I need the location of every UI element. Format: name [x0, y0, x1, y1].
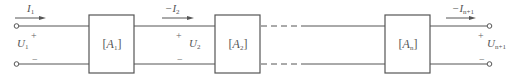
block-a2-label: [A2]: [215, 38, 261, 52]
arrowhead-in1: [469, 16, 476, 20]
current-label-minus-in1: −In+1: [452, 3, 474, 16]
interstage-minus-sign: −: [177, 55, 183, 65]
interstage-plus-sign: +: [176, 31, 182, 41]
output-top-terminal: [487, 24, 492, 29]
output-minus-sign: −: [479, 55, 485, 65]
block-a1-label: [A1]: [89, 38, 135, 52]
input-top-terminal: [14, 24, 19, 29]
input-plus-sign: +: [31, 31, 37, 41]
output-bottom-terminal: [487, 62, 492, 67]
block-an-label: [An]: [385, 38, 431, 52]
voltage-label-u2: U2: [189, 38, 200, 51]
input-bottom-terminal: [14, 62, 19, 67]
arrowhead-i1: [39, 16, 46, 20]
output-plus-sign: +: [478, 31, 484, 41]
input-minus-sign: −: [32, 55, 38, 65]
current-label-i1: I1: [27, 3, 34, 16]
two-port-cascade-diagram: I1 + U1 − −I2 + U2 − −In+1 + Un+1 − [A1]…: [0, 0, 517, 80]
current-label-minus-i2: −I2: [165, 3, 180, 16]
voltage-label-u1: U1: [17, 38, 28, 51]
arrowhead-i2: [187, 16, 194, 20]
voltage-label-un1: Un+1: [487, 38, 506, 51]
